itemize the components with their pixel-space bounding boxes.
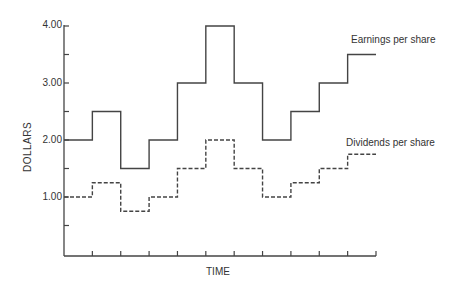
earnings-line: [64, 26, 376, 169]
y-axis-label: DOLLARS: [22, 122, 33, 172]
y-tick-label: 1.00: [22, 191, 62, 202]
legend-dividends: Dividends per share: [346, 137, 435, 148]
series-lines: [64, 26, 376, 211]
y-tick-label: 4.00: [22, 19, 62, 30]
x-axis-label: TIME: [206, 266, 230, 277]
y-tick-label: 3.00: [22, 77, 62, 88]
legend-earnings: Earnings per share: [351, 34, 436, 45]
dividends-line: [64, 140, 376, 211]
